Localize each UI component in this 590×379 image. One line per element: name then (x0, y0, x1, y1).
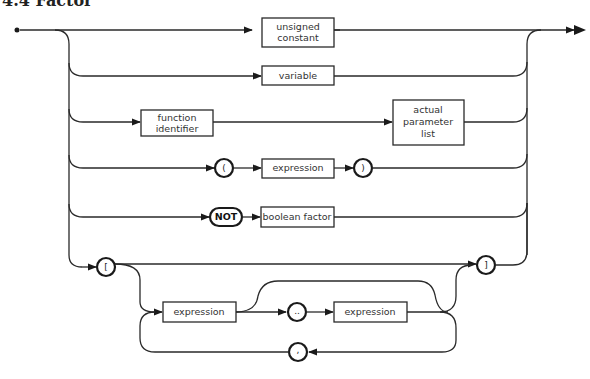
svg-text:boolean factor: boolean factor (263, 211, 332, 222)
svg-text:variable: variable (279, 70, 317, 81)
svg-text:constant: constant (277, 32, 319, 43)
path-paren (69, 155, 214, 168)
terminal-rparen: ) (354, 159, 372, 177)
svg-text:actual: actual (413, 104, 442, 115)
path-variable (69, 63, 261, 76)
node-boolean-factor: boolean factor (261, 207, 334, 227)
terminal-range: .. (288, 303, 306, 321)
syntax-diagram: unsigned constant variable function iden… (0, 0, 590, 379)
svg-text:expression: expression (272, 162, 323, 173)
svg-text:[: [ (104, 262, 108, 272)
node-function-identifier: function identifier (141, 110, 213, 136)
exit-arrow-icon (574, 25, 586, 35)
svg-text:expression: expression (344, 306, 395, 317)
svg-text:(: ( (222, 163, 226, 173)
node-variable: variable (262, 66, 334, 85)
terminal-lparen: ( (215, 159, 233, 177)
entry-point-icon (15, 28, 20, 33)
svg-text:NOT: NOT (215, 211, 238, 222)
right-rail (527, 30, 541, 255)
svg-text:function: function (158, 112, 197, 123)
node-expression-set-1: expression (163, 302, 236, 322)
svg-text:list: list (421, 128, 435, 139)
path-function (69, 109, 140, 122)
svg-text:): ) (361, 163, 365, 173)
node-expression-paren: expression (262, 159, 334, 178)
node-unsigned-constant: unsigned constant (262, 18, 334, 47)
svg-text:expression: expression (173, 306, 224, 317)
node-actual-parameter-list: actual parameter list (393, 100, 464, 145)
svg-text:identifier: identifier (156, 123, 199, 134)
path-set-element (115, 264, 162, 312)
terminal-rbracket: ] (477, 256, 495, 274)
svg-text:,: , (297, 345, 300, 355)
terminal-not: NOT (210, 208, 242, 226)
svg-text:..: .. (294, 306, 300, 316)
path-not (69, 204, 209, 217)
svg-text:parameter: parameter (403, 116, 453, 127)
svg-text:unsigned: unsigned (276, 21, 320, 32)
terminal-lbracket: [ (97, 258, 115, 276)
terminal-comma: , (289, 343, 307, 361)
svg-text:]: ] (484, 260, 488, 270)
node-expression-set-2: expression (334, 302, 407, 322)
